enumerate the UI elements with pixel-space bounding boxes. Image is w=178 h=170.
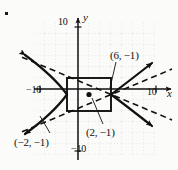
center-label: (2, −1): [86, 126, 115, 138]
y-axis-variable-label: y: [83, 11, 88, 23]
x-axis-variable-label: x: [167, 87, 172, 99]
right-vertex-label: (6, −1): [110, 49, 139, 61]
y-axis-tick-label-10: 10: [58, 16, 68, 27]
hyperbola-figure: 10 −10 −10 10 y x (6, −1) (2, −1) (−2, −…: [0, 0, 178, 170]
x-axis-tick-label-10: 10: [147, 86, 157, 97]
x-axis-tick-label-neg10: −10: [26, 84, 41, 95]
center-point-marker: [86, 92, 91, 97]
y-axis-tick-label-neg10: −10: [71, 143, 86, 154]
left-vertex-label: (−2, −1): [14, 136, 49, 148]
